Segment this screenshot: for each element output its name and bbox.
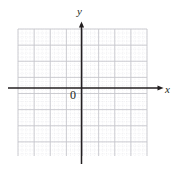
x-axis-label: x <box>165 84 170 95</box>
y-axis-label: y <box>77 6 82 17</box>
axes <box>8 22 164 165</box>
origin-label: 0 <box>70 89 76 101</box>
major-gridlines <box>18 29 147 156</box>
coordinate-plane-svg <box>0 0 175 172</box>
x-axis-arrowhead <box>158 85 164 90</box>
coordinate-grid-figure: y x 0 <box>0 0 175 172</box>
y-axis-arrowhead <box>79 22 84 28</box>
